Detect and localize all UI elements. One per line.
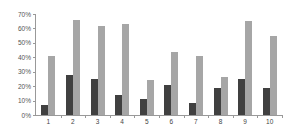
x-tick-mark <box>159 115 160 118</box>
x-tick-mark <box>184 115 185 118</box>
y-tick-mark <box>33 72 36 73</box>
x-tick-label: 1 <box>38 118 58 125</box>
y-tick-label: 10% <box>0 97 31 104</box>
bar-series-1 <box>115 95 122 115</box>
bar-series-1 <box>263 88 270 115</box>
bar-series-2 <box>122 24 129 115</box>
x-tick-label: 8 <box>211 118 231 125</box>
bar-series-1 <box>41 105 48 115</box>
bar-series-1 <box>189 103 196 115</box>
y-tick-label: 40% <box>0 54 31 61</box>
y-tick-label: 0% <box>0 112 31 119</box>
y-tick-mark <box>33 115 36 116</box>
x-tick-label: 5 <box>137 118 157 125</box>
x-tick-label: 10 <box>260 118 280 125</box>
y-tick-label: 50% <box>0 39 31 46</box>
bar-series-1 <box>140 99 147 115</box>
bar-series-1 <box>238 79 245 115</box>
y-tick-label: 20% <box>0 83 31 90</box>
bar-series-2 <box>147 80 154 115</box>
y-tick-label: 30% <box>0 68 31 75</box>
x-tick-mark <box>61 115 62 118</box>
x-tick-label: 4 <box>112 118 132 125</box>
x-tick-mark <box>208 115 209 118</box>
y-tick-label: 70% <box>0 11 31 18</box>
x-tick-label: 7 <box>186 118 206 125</box>
bar-series-2 <box>48 56 55 115</box>
x-tick-label: 2 <box>63 118 83 125</box>
bar-series-2 <box>196 56 203 115</box>
x-tick-mark <box>134 115 135 118</box>
bar-series-2 <box>245 21 252 115</box>
x-tick-mark <box>85 115 86 118</box>
y-tick-mark <box>33 101 36 102</box>
y-tick-mark <box>33 14 36 15</box>
x-tick-label: 3 <box>88 118 108 125</box>
y-tick-label: 60% <box>0 25 31 32</box>
bar-series-2 <box>73 20 80 115</box>
bar-series-1 <box>91 79 98 115</box>
x-tick-mark <box>282 115 283 118</box>
y-tick-mark <box>33 43 36 44</box>
x-tick-mark <box>110 115 111 118</box>
y-tick-mark <box>33 28 36 29</box>
bar-chart: 0%10%20%30%40%50%60%70% 12345678910 <box>0 0 294 131</box>
bar-series-1 <box>164 85 171 115</box>
bar-series-2 <box>221 77 228 115</box>
x-tick-mark <box>257 115 258 118</box>
bar-series-1 <box>214 88 221 115</box>
y-tick-mark <box>33 57 36 58</box>
x-tick-label: 9 <box>235 118 255 125</box>
bar-series-2 <box>171 52 178 115</box>
x-tick-mark <box>233 115 234 118</box>
x-tick-label: 6 <box>161 118 181 125</box>
y-tick-mark <box>33 86 36 87</box>
bar-series-2 <box>98 26 105 115</box>
bar-series-1 <box>66 75 73 115</box>
bar-series-2 <box>270 36 277 115</box>
